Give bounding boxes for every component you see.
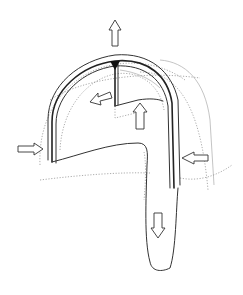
arrow-right-left-side-icon — [18, 143, 43, 155]
arrow-down-tail-icon — [151, 213, 165, 238]
arch-inner-edge — [56, 66, 170, 188]
arrow-up-inner-icon — [133, 103, 147, 129]
tail-dotted — [144, 152, 146, 200]
arch-outer-edge — [48, 55, 180, 185]
base-dotted-left — [40, 173, 150, 180]
arrow-down-left-icon — [90, 92, 112, 105]
arrow-left-right-side-icon — [182, 152, 208, 164]
force-diagram — [0, 0, 243, 295]
inner-dotted-curve — [60, 73, 164, 150]
web-wing — [120, 70, 160, 88]
rear-shell-dotted — [40, 63, 185, 165]
arrow-up-top-icon — [109, 20, 121, 46]
diagram-canvas — [0, 0, 243, 295]
lower-tail — [52, 143, 178, 270]
